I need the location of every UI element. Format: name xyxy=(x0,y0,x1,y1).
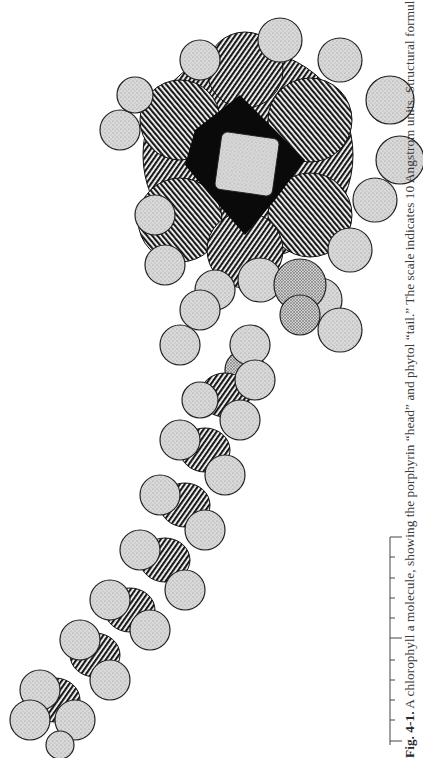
figure-caption: Fig. 4-1. A chlorophyll a molecule, show… xyxy=(401,0,419,758)
phytol-tail xyxy=(10,360,275,758)
figure-label: Fig. 4-1. xyxy=(402,711,417,758)
scale-bar xyxy=(388,535,402,745)
caption-text: A chlorophyll a molecule, showing the po… xyxy=(402,0,417,711)
chlorophyll-molecule-figure xyxy=(0,0,423,758)
porphyrin-head xyxy=(100,18,423,390)
